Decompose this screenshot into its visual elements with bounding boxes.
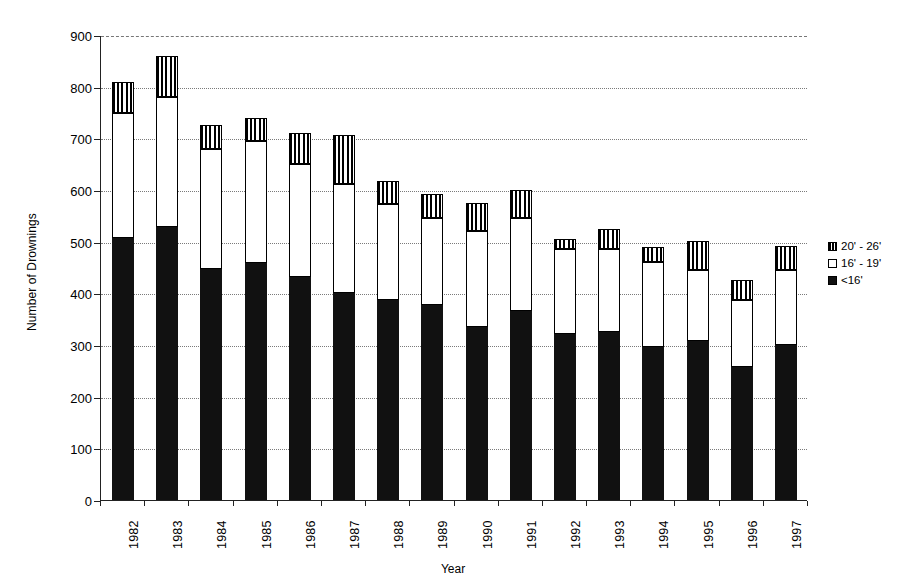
x-axis-tick-label-1989: 1989 — [436, 520, 450, 549]
legend-label-1: 16' - 19' — [841, 258, 881, 270]
bar-segment-1982-1[interactable] — [112, 113, 134, 238]
y-axis-tick-label: 400 — [38, 288, 92, 301]
bar-1983[interactable] — [156, 35, 178, 500]
bar-segment-1991-0[interactable] — [510, 311, 532, 500]
bar-segment-1993-2[interactable] — [598, 229, 620, 250]
x-axis-tick-mark — [188, 501, 189, 506]
bar-segment-1996-0[interactable] — [731, 367, 753, 500]
bar-segment-1993-1[interactable] — [598, 249, 620, 332]
bar-segment-1995-2[interactable] — [687, 241, 709, 270]
bar-1988[interactable] — [377, 35, 399, 500]
legend-item-2[interactable]: <16' — [828, 272, 920, 289]
y-axis-tick-label: 800 — [38, 81, 92, 94]
y-axis-tick-label: 100 — [38, 443, 92, 456]
bar-1992[interactable] — [554, 35, 576, 500]
bar-segment-1994-1[interactable] — [642, 262, 664, 346]
bar-segment-1997-0[interactable] — [775, 345, 797, 500]
bar-segment-1995-1[interactable] — [687, 270, 709, 341]
bar-segment-1987-2[interactable] — [333, 135, 355, 184]
bar-segment-1986-1[interactable] — [289, 164, 311, 277]
bar-segment-1984-1[interactable] — [200, 149, 222, 269]
x-axis-tick-mark — [277, 501, 278, 506]
y-axis-tick-mark — [94, 294, 100, 295]
bar-segment-1992-0[interactable] — [554, 334, 576, 500]
bar-segment-1994-2[interactable] — [642, 247, 664, 263]
bar-segment-1988-1[interactable] — [377, 204, 399, 300]
x-axis-tick-label-1991: 1991 — [525, 520, 539, 549]
bar-segment-1996-1[interactable] — [731, 300, 753, 367]
x-axis-tick-mark — [763, 501, 764, 506]
bar-1987[interactable] — [333, 35, 355, 500]
bar-segment-1988-0[interactable] — [377, 300, 399, 500]
bar-1986[interactable] — [289, 35, 311, 500]
bar-1997[interactable] — [775, 35, 797, 500]
bar-segment-1987-1[interactable] — [333, 184, 355, 294]
x-axis-tick-label-1990: 1990 — [481, 520, 495, 549]
bar-1989[interactable] — [421, 35, 443, 500]
bar-1995[interactable] — [687, 35, 709, 500]
bar-segment-1992-2[interactable] — [554, 239, 576, 249]
x-axis-tick-mark — [630, 501, 631, 506]
plot-area — [100, 36, 807, 501]
drownings-stacked-bar-chart: Number of Drownings Year 20' - 26'16' - … — [0, 0, 920, 585]
bar-segment-1992-1[interactable] — [554, 249, 576, 333]
x-axis-tick-label-1995: 1995 — [702, 520, 716, 549]
bar-segment-1986-2[interactable] — [289, 133, 311, 164]
bar-segment-1985-2[interactable] — [245, 118, 267, 141]
bar-1984[interactable] — [200, 35, 222, 500]
bar-segment-1990-2[interactable] — [466, 203, 488, 231]
x-axis-tick-label-1993: 1993 — [613, 520, 627, 549]
bar-1985[interactable] — [245, 35, 267, 500]
bar-segment-1983-2[interactable] — [156, 56, 178, 97]
x-axis-tick-label-1984: 1984 — [215, 520, 229, 549]
bar-segment-1997-1[interactable] — [775, 270, 797, 345]
bar-segment-1985-1[interactable] — [245, 141, 267, 263]
bar-segment-1982-0[interactable] — [112, 238, 134, 500]
bar-segment-1989-1[interactable] — [421, 218, 443, 304]
bar-segment-1987-0[interactable] — [333, 293, 355, 500]
bar-segment-1991-2[interactable] — [510, 190, 532, 218]
bar-1996[interactable] — [731, 35, 753, 500]
legend-item-1[interactable]: 16' - 19' — [828, 255, 920, 272]
bar-segment-1996-2[interactable] — [731, 280, 753, 299]
bar-segment-1988-2[interactable] — [377, 181, 399, 204]
bar-segment-1993-0[interactable] — [598, 332, 620, 500]
x-axis-tick-label-1992: 1992 — [569, 520, 583, 549]
y-axis-title: Number of Drownings — [25, 162, 39, 382]
y-axis-tick-label: 700 — [38, 133, 92, 146]
y-axis-tick-label: 0 — [38, 495, 92, 508]
bar-segment-1991-1[interactable] — [510, 218, 532, 311]
bar-1990[interactable] — [466, 35, 488, 500]
legend-item-0[interactable]: 20' - 26' — [828, 238, 920, 255]
x-axis-tick-label-1988: 1988 — [392, 520, 406, 549]
x-axis-tick-mark — [100, 501, 101, 506]
bar-segment-1983-0[interactable] — [156, 227, 178, 500]
legend-swatch-icon-0 — [828, 242, 837, 251]
y-axis-tick-label: 600 — [38, 185, 92, 198]
x-axis-tick-mark — [719, 501, 720, 506]
bar-segment-1990-1[interactable] — [466, 231, 488, 327]
y-axis-tick-mark — [94, 449, 100, 450]
bar-segment-1989-0[interactable] — [421, 305, 443, 500]
bar-segment-1989-2[interactable] — [421, 194, 443, 219]
bar-1994[interactable] — [642, 35, 664, 500]
bar-segment-1985-0[interactable] — [245, 263, 267, 500]
bar-segment-1982-2[interactable] — [112, 82, 134, 113]
bar-segment-1995-0[interactable] — [687, 341, 709, 500]
bar-segment-1984-2[interactable] — [200, 125, 222, 148]
bar-1993[interactable] — [598, 35, 620, 500]
x-axis-tick-mark — [321, 501, 322, 506]
x-axis-tick-label-1982: 1982 — [127, 520, 141, 549]
x-axis-tick-label-1983: 1983 — [171, 520, 185, 549]
bar-segment-1990-0[interactable] — [466, 327, 488, 500]
bar-1982[interactable] — [112, 35, 134, 500]
bar-segment-1983-1[interactable] — [156, 97, 178, 227]
bar-segment-1994-0[interactable] — [642, 347, 664, 500]
bar-segment-1997-2[interactable] — [775, 246, 797, 270]
y-axis-tick-mark — [94, 36, 100, 37]
x-axis-tick-mark — [498, 501, 499, 506]
bar-1991[interactable] — [510, 35, 532, 500]
bar-segment-1986-0[interactable] — [289, 277, 311, 500]
x-axis-tick-mark — [409, 501, 410, 506]
bar-segment-1984-0[interactable] — [200, 269, 222, 500]
